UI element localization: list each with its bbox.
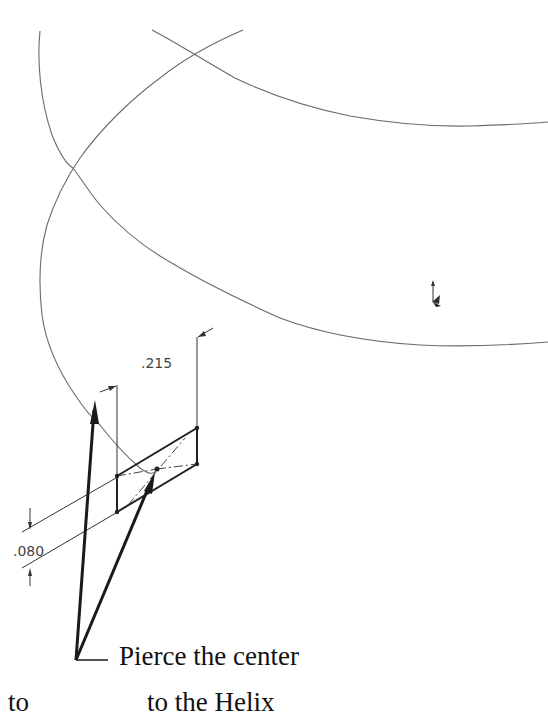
profile-sketch[interactable] [115, 426, 199, 514]
annotation-line-1: Pierce the center [119, 643, 299, 670]
fragment-text: to [8, 689, 29, 716]
helix-curve-lower-lead [100, 425, 158, 473]
sketch-canvas: .215 .080 [0, 0, 548, 717]
profile-center-point[interactable] [155, 467, 160, 472]
coordinate-origin-icon [431, 280, 441, 307]
annotation-line-2: to the Helix [147, 689, 274, 716]
arrowhead-icon [90, 400, 99, 424]
dimension-width-label: .215 [141, 355, 172, 371]
helix-curve-outer-left [39, 31, 548, 346]
dimension-height[interactable]: .080 [13, 478, 116, 586]
dimension-height-label: .080 [13, 543, 44, 559]
